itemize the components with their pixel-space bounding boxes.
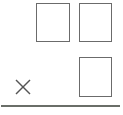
- multiply-icon: [13, 77, 33, 97]
- multiplicand-ones-box[interactable]: [79, 3, 112, 42]
- multiplier-ones-box[interactable]: [79, 57, 112, 97]
- multiplicand-tens-box[interactable]: [36, 3, 70, 42]
- result-line: [1, 105, 120, 107]
